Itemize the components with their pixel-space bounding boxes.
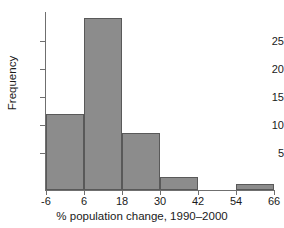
x-tick-label: 54 — [216, 196, 256, 207]
y-tick-mark — [40, 41, 45, 42]
x-axis-title: % population change, 1990–2000 — [0, 210, 284, 222]
histogram-bar — [46, 114, 84, 190]
y-tick-mark — [40, 153, 45, 154]
plot-area — [46, 12, 274, 190]
histogram-bar — [160, 177, 198, 190]
x-tick-label: 30 — [140, 196, 180, 207]
x-tick-label: 66 — [254, 196, 284, 207]
x-tick-label: 18 — [102, 196, 142, 207]
histogram-chart: 5 10 15 20 25 -6 6 18 30 42 54 66 % popu… — [0, 0, 284, 228]
x-tick-label: -6 — [26, 196, 66, 207]
y-tick-mark — [40, 97, 45, 98]
histogram-bar — [84, 18, 122, 190]
histogram-bar — [236, 184, 274, 190]
y-tick-mark — [40, 69, 45, 70]
x-tick-label: 6 — [64, 196, 104, 207]
x-tick-label: 42 — [178, 196, 218, 207]
y-axis-title: Frequency — [6, 23, 18, 143]
y-tick-mark — [40, 125, 45, 126]
histogram-bar — [122, 133, 160, 190]
